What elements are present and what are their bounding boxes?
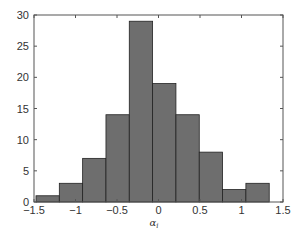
histogram-chart: −1.5−1−0.500.511.5 051015202530 αi	[0, 0, 301, 242]
x-tick-label: −0.5	[106, 204, 128, 216]
histogram-bar	[59, 183, 82, 202]
histogram-bar	[36, 196, 59, 202]
x-axis-label: αi	[149, 217, 158, 230]
histogram-bars	[36, 21, 269, 202]
x-tick-label: 1	[238, 204, 244, 216]
y-tick-label: 10	[17, 134, 29, 146]
x-tick-label: 1.5	[275, 204, 290, 216]
histogram-bar	[176, 115, 199, 202]
histogram-bar	[246, 183, 269, 202]
x-tick-label: −1	[69, 204, 82, 216]
histogram-bar	[129, 21, 152, 202]
histogram-bar	[223, 190, 246, 202]
x-tick-label: 0	[155, 204, 161, 216]
y-tick-label: 15	[17, 103, 29, 115]
histogram-bar	[153, 84, 176, 202]
y-tick-label: 5	[23, 165, 29, 177]
y-tick-label: 25	[17, 40, 29, 52]
y-tick-label: 30	[17, 9, 29, 21]
x-tick-label: 0.5	[192, 204, 207, 216]
histogram-bar	[83, 158, 106, 202]
y-tick-label: 0	[23, 196, 29, 208]
y-tick-label: 20	[17, 71, 29, 83]
histogram-bar	[106, 115, 129, 202]
histogram-bar	[199, 152, 222, 202]
